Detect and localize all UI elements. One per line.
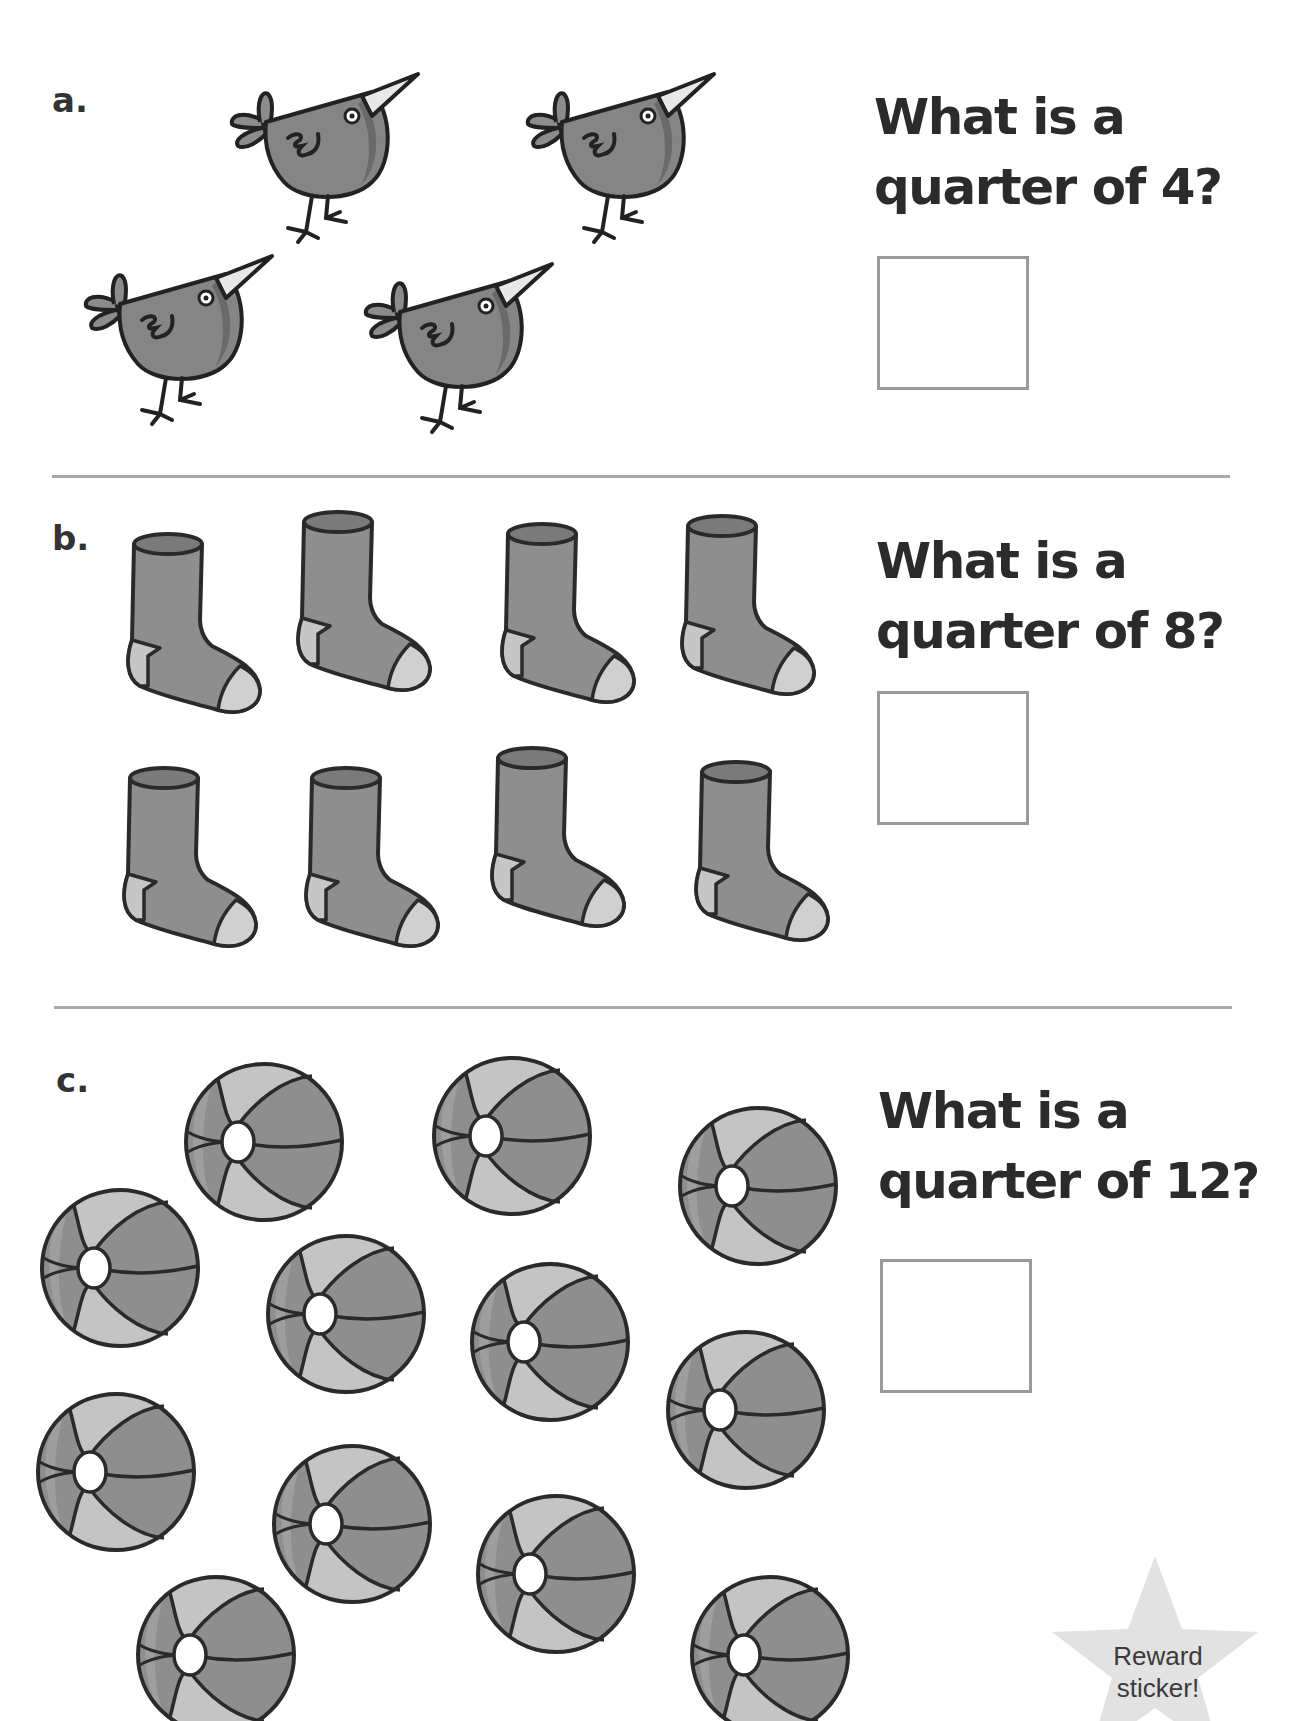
beach-ball-illustration [476, 1494, 636, 1654]
beach-ball-illustration [136, 1575, 296, 1721]
question-line-1: What is a [876, 526, 1223, 596]
beach-ball-illustration [690, 1575, 850, 1721]
section-a: a. What is a quarter of 4? [0, 0, 1290, 470]
sock-illustration [300, 764, 450, 959]
question-text: What is a quarter of 4? [874, 82, 1221, 222]
answer-box[interactable] [880, 1259, 1032, 1393]
beach-ball-illustration [36, 1392, 196, 1552]
question-line-1: What is a [878, 1076, 1259, 1146]
sock-illustration [676, 512, 826, 707]
question-line-2: quarter of 4? [874, 152, 1221, 222]
question-line-2: quarter of 8? [876, 596, 1223, 666]
section-divider [54, 1006, 1232, 1009]
section-label: a. [52, 80, 88, 120]
answer-box[interactable] [877, 256, 1029, 390]
beach-ball-illustration [470, 1262, 630, 1422]
answer-box[interactable] [877, 691, 1029, 825]
question-line-1: What is a [874, 82, 1221, 152]
reward-sticker-label: Reward sticker! [1078, 1640, 1238, 1704]
bird-illustration [518, 72, 718, 247]
beach-ball-illustration [432, 1056, 592, 1216]
sock-illustration [486, 744, 636, 939]
sock-illustration [122, 530, 272, 725]
question-text: What is a quarter of 8? [876, 526, 1223, 666]
beach-ball-illustration [666, 1330, 826, 1490]
bird-illustration [356, 262, 556, 437]
beach-ball-illustration [678, 1106, 838, 1266]
sock-illustration [118, 764, 268, 959]
beach-ball-illustration [40, 1188, 200, 1348]
section-label: b. [52, 518, 89, 558]
sock-illustration [292, 508, 442, 703]
question-text: What is a quarter of 12? [878, 1076, 1259, 1216]
section-divider [52, 475, 1230, 478]
sock-illustration [690, 758, 840, 953]
reward-line-2: sticker! [1078, 1672, 1238, 1704]
question-line-2: quarter of 12? [878, 1146, 1259, 1216]
beach-ball-illustration [184, 1062, 344, 1222]
sock-illustration [496, 520, 646, 715]
beach-ball-illustration [266, 1234, 426, 1394]
bird-illustration [222, 72, 422, 247]
reward-line-1: Reward [1078, 1640, 1238, 1672]
bird-illustration [76, 254, 276, 429]
section-b: b. What is a quarter of 8? [0, 480, 1290, 1000]
section-label: c. [56, 1060, 89, 1100]
beach-ball-illustration [272, 1444, 432, 1604]
